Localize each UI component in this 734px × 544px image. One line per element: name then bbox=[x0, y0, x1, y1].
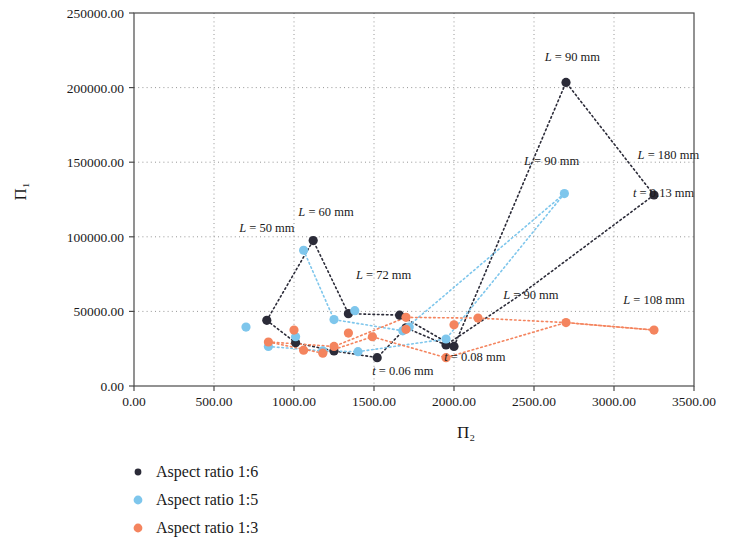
data-point bbox=[560, 189, 569, 198]
data-point bbox=[262, 316, 271, 325]
y-tick-label: 200000.00 bbox=[67, 81, 125, 96]
scatter-plot: L = 50 mmL = 60 mmL = 72 mmL = 90 mmL = … bbox=[0, 0, 734, 544]
data-point bbox=[561, 318, 570, 327]
data-point bbox=[264, 337, 273, 346]
x-tick-label: 0.00 bbox=[122, 394, 146, 409]
data-point bbox=[473, 314, 482, 323]
y-axis-title: Π₁ bbox=[11, 182, 30, 200]
grid-layer bbox=[134, 13, 694, 386]
x-tick-label: 1000.00 bbox=[272, 394, 316, 409]
legend-layer: Aspect ratio 1:6Aspect ratio 1:5Aspect r… bbox=[134, 463, 259, 537]
series-connector-line bbox=[268, 317, 654, 346]
data-point bbox=[344, 328, 353, 337]
series-lines-layer bbox=[267, 82, 654, 357]
legend-marker bbox=[134, 496, 143, 505]
chart-figure: L = 50 mmL = 60 mmL = 72 mmL = 90 mmL = … bbox=[0, 0, 734, 544]
data-point bbox=[299, 246, 308, 255]
annotation-ann-L60: L = 60 mm bbox=[297, 205, 354, 219]
data-point bbox=[373, 353, 382, 362]
annotation-ann-t008: t = 0.08 mm bbox=[444, 350, 506, 364]
data-point bbox=[329, 315, 338, 324]
data-point bbox=[441, 334, 450, 343]
x-tick-label: 500.00 bbox=[195, 394, 232, 409]
annotation-ann-L72: L = 72 mm bbox=[355, 268, 412, 282]
annotation-ann-L50: L = 50 mm bbox=[238, 221, 295, 235]
data-point bbox=[368, 332, 377, 341]
data-point bbox=[299, 346, 308, 355]
x-tick-label: 3500.00 bbox=[672, 394, 716, 409]
data-point bbox=[318, 349, 327, 358]
data-point bbox=[241, 322, 250, 331]
x-tick-label: 1500.00 bbox=[352, 394, 396, 409]
x-tick-label: 3000.00 bbox=[592, 394, 636, 409]
data-point bbox=[449, 320, 458, 329]
data-point bbox=[350, 306, 359, 315]
annotation-ann-L90b: L = 90 mm bbox=[523, 154, 580, 168]
data-point bbox=[649, 325, 658, 334]
legend-label: Aspect ratio 1:5 bbox=[156, 491, 258, 509]
legend-marker bbox=[135, 469, 142, 476]
data-point bbox=[353, 347, 362, 356]
x-axis-title: Π₂ bbox=[457, 423, 475, 442]
data-point bbox=[401, 313, 410, 322]
y-tick-label: 0.00 bbox=[100, 379, 124, 394]
axis-layer: 0.00500.001000.001500.002000.002500.0030… bbox=[11, 6, 716, 442]
data-point bbox=[329, 342, 338, 351]
data-point bbox=[309, 236, 318, 245]
y-tick-label: 150000.00 bbox=[67, 155, 125, 170]
legend-label: Aspect ratio 1:3 bbox=[156, 519, 258, 537]
data-point bbox=[401, 325, 410, 334]
x-tick-label: 2500.00 bbox=[512, 394, 556, 409]
annotation-ann-L90a: L = 90 mm bbox=[544, 50, 601, 64]
y-tick-label: 50000.00 bbox=[73, 304, 124, 319]
plot-frame bbox=[134, 13, 694, 386]
x-tick-label: 2000.00 bbox=[432, 394, 476, 409]
data-point bbox=[289, 325, 298, 334]
y-tick-label: 250000.00 bbox=[67, 6, 125, 21]
annotation-ann-t006: t = 0.06 mm bbox=[372, 364, 434, 378]
annotation-ann-t013: t = 0.13 mm bbox=[633, 186, 695, 200]
annotation-ann-L180: L = 180 mm bbox=[637, 148, 700, 162]
annotation-ann-L108: L = 108 mm bbox=[622, 293, 685, 307]
annotation-ann-L90c: L = 90 mm bbox=[502, 288, 559, 302]
legend-marker bbox=[134, 524, 143, 533]
data-point bbox=[561, 78, 570, 87]
legend-label: Aspect ratio 1:6 bbox=[156, 463, 258, 481]
y-tick-label: 100000.00 bbox=[67, 230, 125, 245]
